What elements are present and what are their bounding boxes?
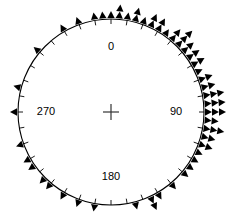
data-marker-triangle [204, 100, 211, 107]
angular-tick [51, 41, 54, 45]
data-marker-triangle [204, 117, 211, 124]
data-marker-triangle [217, 90, 225, 97]
data-marker-triangle [210, 126, 218, 133]
data-marker-triangle [10, 108, 17, 115]
data-marker-triangle [132, 202, 139, 210]
data-marker-triangle [208, 135, 216, 142]
angular-tick [24, 142, 29, 144]
angular-tick [194, 80, 199, 82]
angular-tick [19, 127, 24, 128]
data-marker-triangle [46, 182, 53, 190]
angular-tick [40, 52, 44, 55]
data-marker-triangle [91, 204, 98, 212]
angular-tick [168, 179, 171, 183]
data-marker-triangle [175, 41, 183, 49]
angular-tick [65, 188, 68, 192]
angular-tick [95, 199, 96, 204]
angle-label-90: 90 [170, 105, 182, 117]
data-marker-triangle [124, 13, 131, 21]
data-marker-triangle [201, 133, 209, 140]
angular-tick [65, 31, 68, 35]
angular-tick [194, 142, 199, 144]
data-marker-triangle [116, 11, 123, 18]
data-marker-triangle [169, 182, 176, 190]
angular-tick [155, 188, 158, 192]
angular-tick [141, 25, 143, 30]
data-marker-triangle [218, 99, 225, 106]
angular-tick [30, 66, 34, 69]
data-marker-triangle [107, 11, 114, 18]
data-marker-triangle [219, 108, 226, 115]
data-marker-triangle [169, 35, 176, 43]
angular-tick [126, 20, 127, 25]
center-cross-marker [103, 104, 119, 120]
angular-tick [40, 169, 44, 172]
data-marker-triangle [132, 14, 139, 22]
data-marker-triangle [40, 176, 48, 184]
angular-tick [126, 199, 127, 204]
angle-label-180: 180 [102, 170, 120, 182]
data-marker-triangle [217, 127, 225, 134]
data-marker-triangle [13, 84, 21, 91]
angular-tick [187, 156, 191, 159]
data-marker-triangle [197, 58, 205, 65]
angle-label-0: 0 [108, 40, 114, 52]
data-marker-triangle [210, 91, 218, 98]
angular-tick [19, 96, 24, 97]
angular-tick [95, 20, 96, 25]
angular-tick [178, 169, 182, 172]
data-marker-triangle [134, 8, 141, 16]
data-marker-triangle [203, 125, 211, 132]
angular-tick [155, 31, 158, 35]
data-marker-triangle [181, 170, 189, 177]
angular-tick [24, 80, 29, 82]
data-marker-triangle [208, 82, 216, 89]
angular-tick [168, 41, 171, 45]
data-marker-triangle [192, 50, 200, 57]
angular-tick [178, 52, 182, 55]
data-marker-triangle [116, 4, 123, 11]
angular-tick [79, 195, 81, 200]
angular-tick [141, 195, 143, 200]
angle-label-270: 270 [37, 105, 55, 117]
data-marker-triangle [212, 108, 219, 115]
data-marker-triangle [205, 108, 212, 115]
axis-angle-labels: 090180270 [37, 40, 182, 182]
data-marker-triangle [91, 13, 98, 21]
angular-tick [198, 96, 203, 97]
angular-tick [187, 66, 191, 69]
data-marker-triangle [34, 47, 42, 54]
angular-tick [198, 127, 203, 128]
circular-histogram-canvas: 090180270 [0, 0, 239, 224]
data-marker-triangle [99, 11, 106, 18]
data-marker-triangle [203, 92, 211, 99]
circular-plot-figure: 090180270 [0, 0, 239, 224]
angular-tick [79, 25, 81, 30]
angular-tick [51, 179, 54, 183]
data-marker-triangle [211, 117, 218, 124]
data-marker-triangle [158, 18, 165, 26]
data-marker-triangle [211, 100, 218, 107]
angular-tick [30, 156, 34, 159]
data-marker-triangle [201, 84, 209, 91]
data-marker-triangle [181, 47, 189, 54]
